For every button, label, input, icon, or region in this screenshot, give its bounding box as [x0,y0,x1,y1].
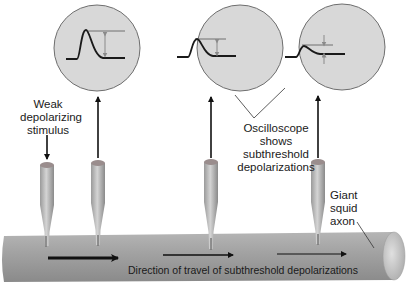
oscilloscope-3 [285,4,385,90]
stimulus-label-line-2: depolarizing [20,111,76,124]
stimulus-label-line-3: stimulus [20,124,76,137]
diagram-canvas [0,0,406,282]
recording-electrode-1 [91,160,105,246]
oscilloscope-label-line-2: shows [228,135,324,148]
axon-label-line-2: squid [330,202,370,215]
stimulus-label-line-1: Weak [20,98,76,111]
stimulus-label: Weak depolarizing stimulus [20,98,76,137]
oscilloscope-2 [177,5,283,91]
axon-label: Giant squid axon [330,189,370,228]
direction-label: Direction of travel of subthreshold depo… [128,264,358,276]
axon-label-line-1: Giant [330,189,370,202]
diagram-stage: Weak depolarizing stimulus Oscilloscope … [0,0,406,282]
oscilloscope-label-line-4: depolarizations [228,161,324,174]
axon-label-line-3: axon [330,215,370,228]
oscilloscope-label: Oscilloscope shows subthreshold depolari… [228,122,324,174]
oscilloscope-label-line-3: subthreshold [228,148,324,161]
stimulating-electrode [40,162,54,247]
oscilloscope-label-line-1: Oscilloscope [228,122,324,135]
oscilloscope-callout-lines [235,88,285,118]
oscilloscope-1 [54,5,140,91]
